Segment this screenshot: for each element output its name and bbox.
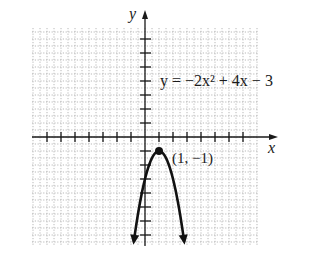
vertex-label: (1, −1) [172, 150, 213, 167]
parabola-graph: y x y = −2x² + 4x − 3 (1, −1) [0, 0, 316, 266]
y-axis-label: y [127, 5, 137, 23]
vertex-point [155, 147, 163, 155]
equation-label: y = −2x² + 4x − 3 [160, 72, 273, 90]
x-axis-label: x [267, 139, 275, 156]
axes [32, 10, 278, 246]
